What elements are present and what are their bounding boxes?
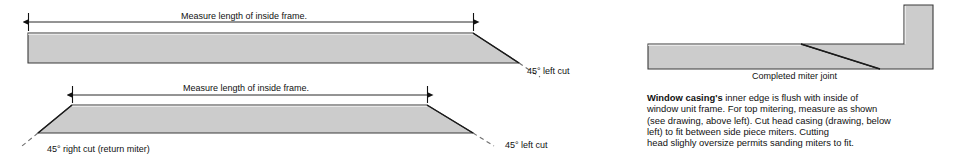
note-line-0: Window casing's inner edge is flush with… xyxy=(647,92,949,103)
bottom-left-miter-extension-dashed xyxy=(22,133,38,146)
note-line-3: left) to fit between side piece miters. … xyxy=(647,126,949,137)
completed-miter-joint-group xyxy=(648,5,933,69)
top-miter-cut-extension-dashed xyxy=(519,63,540,77)
miter-diagram-figure: Measure length of inside frame. 45° left… xyxy=(0,0,955,164)
top-casing-board-group xyxy=(28,33,540,77)
bottom-casing-board xyxy=(38,105,473,133)
bottom-casing-board-group xyxy=(22,105,494,146)
note-line-0-rest: inner edge is flush with inside of xyxy=(723,92,859,103)
note-line-1: window unit frame. For top mitering, mea… xyxy=(647,103,949,114)
note-line-2: (see drawing, above left). Cut head casi… xyxy=(647,115,949,126)
bottom-right-miter-extension-dashed xyxy=(473,133,494,146)
bottom-dimension-group xyxy=(73,86,428,103)
window-casing-note: Window casing's inner edge is flush with… xyxy=(647,92,949,148)
top-dimension-group xyxy=(29,13,474,31)
note-line-4: head slighly oversize permits sanding mi… xyxy=(647,137,949,148)
note-lead-bold: Window casing's xyxy=(647,92,723,103)
top-casing-board xyxy=(28,33,519,63)
